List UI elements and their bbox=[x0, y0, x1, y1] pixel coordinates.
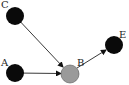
label-e: E bbox=[119, 29, 126, 40]
graph-svg: C A B E bbox=[0, 0, 129, 85]
label-a: A bbox=[0, 57, 9, 68]
edge-c-to-b bbox=[15, 16, 63, 67]
graph-diagram: C A B E bbox=[0, 0, 129, 85]
label-b: B bbox=[77, 57, 84, 68]
node-c bbox=[6, 7, 24, 25]
node-a bbox=[6, 64, 24, 82]
label-c: C bbox=[1, 0, 9, 10]
